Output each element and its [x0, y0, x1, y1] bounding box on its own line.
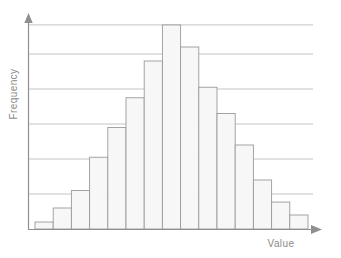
chart-canvas: Value Frequency [0, 0, 341, 258]
histogram-bar [217, 114, 235, 230]
histogram-bar [235, 145, 253, 229]
histogram-bar [71, 191, 89, 230]
histogram-bar [272, 202, 290, 229]
histogram-bar [162, 25, 180, 229]
histogram-bar [144, 61, 162, 229]
histogram-bar [290, 215, 308, 229]
histogram-bar [126, 98, 144, 229]
histogram-bar-group [35, 25, 308, 229]
histogram-bar [108, 128, 126, 230]
histogram-chart: Value Frequency [0, 0, 341, 258]
histogram-bar [181, 47, 199, 229]
x-axis-label: Value [268, 238, 295, 249]
histogram-bar [199, 87, 217, 229]
histogram-bar [35, 222, 53, 229]
y-axis-arrow-icon [24, 13, 32, 23]
histogram-bar [253, 180, 271, 229]
histogram-bar [90, 157, 108, 229]
histogram-bar [53, 208, 71, 229]
x-axis-arrow-icon [311, 225, 322, 234]
y-axis-label: Frequency [8, 69, 19, 120]
